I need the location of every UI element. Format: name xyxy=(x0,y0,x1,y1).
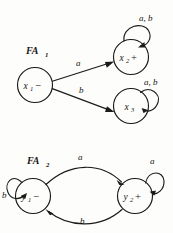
transition-x1-x2-label: a xyxy=(76,58,81,68)
transition-y1-y2-label: a xyxy=(78,152,83,162)
transition-y2-y1-curve xyxy=(49,210,123,224)
transition-x1-x2-line xyxy=(52,63,110,81)
state-x1-subscript: 1 xyxy=(30,85,33,92)
state-x1[interactable]: x 1 − xyxy=(18,68,53,103)
transition-y2-self: a xyxy=(146,156,165,196)
fa2-caption: FA 2 xyxy=(26,155,50,168)
state-x2[interactable]: x 2 + xyxy=(114,40,149,75)
transition-x1-x3-label: b xyxy=(79,85,84,95)
automata-figure: FA 1 a b a, b xyxy=(0,0,173,233)
state-x3[interactable]: x 3 xyxy=(114,89,149,124)
transition-y2-y1: b xyxy=(45,209,122,226)
state-y2-subscript: 2 xyxy=(130,196,134,203)
fa2-caption-text: FA xyxy=(26,155,40,166)
fa2-caption-subscript: 2 xyxy=(45,161,50,168)
state-x1-label: x xyxy=(23,81,29,91)
state-x3-subscript: 3 xyxy=(130,106,135,113)
state-x2-label: x xyxy=(119,53,125,63)
transition-x2-self-label: a, b xyxy=(139,13,153,23)
automata-diagram-canvas: FA 1 a b a, b xyxy=(0,0,173,233)
transition-x2-self-loop xyxy=(124,26,150,46)
transition-x1-x3: b xyxy=(52,85,114,112)
state-y1-label: y xyxy=(21,192,27,202)
state-y1-subscript: 1 xyxy=(28,196,31,203)
transition-y2-self-label: a xyxy=(150,156,155,166)
automaton-fa1: FA 1 a b a, b xyxy=(18,13,159,124)
automaton-fa2: FA 2 a b b xyxy=(2,152,164,226)
state-y1[interactable]: y 1 − xyxy=(16,179,51,214)
transition-x2-self: a, b xyxy=(124,13,153,48)
transition-y1-self-label: b xyxy=(2,190,7,200)
state-x3-label: x xyxy=(124,102,130,112)
state-x2-subscript: 2 xyxy=(126,57,130,64)
transition-y1-y2-curve xyxy=(46,167,122,184)
transition-x3-self-label: a, b xyxy=(144,77,158,87)
state-y2-label: y xyxy=(123,192,129,202)
transition-x1-x2: a xyxy=(52,58,114,81)
state-y2-accept-marker: + xyxy=(135,191,141,202)
transition-x1-x2-arrowhead xyxy=(105,62,114,68)
state-y2[interactable]: y 2 + xyxy=(118,179,153,214)
fa1-caption: FA 1 xyxy=(25,45,48,58)
state-x2-accept-marker: + xyxy=(131,52,137,63)
transition-y2-y1-label: b xyxy=(80,216,85,226)
fa1-caption-subscript: 1 xyxy=(45,51,48,58)
transition-y2-self-loop xyxy=(146,173,165,194)
transition-y1-y2: a xyxy=(46,152,124,185)
state-y1-start-marker: − xyxy=(34,191,40,202)
transition-x3-self: a, b xyxy=(141,77,159,113)
state-x1-start-marker: − xyxy=(36,80,42,91)
fa1-caption-text: FA xyxy=(25,45,39,56)
